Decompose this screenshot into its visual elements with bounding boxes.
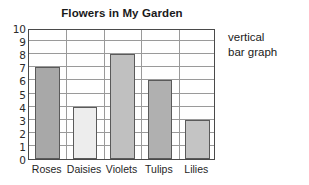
x-tick-label: Roses: [28, 162, 65, 176]
y-tick-label: 4: [6, 102, 26, 113]
bar-violets: [110, 54, 135, 159]
y-tick-label: 5: [6, 89, 26, 100]
annotation-line-1: vertical: [228, 30, 277, 45]
page-title: Flowers in My Garden: [28, 7, 216, 19]
bars-layer: [29, 30, 214, 159]
y-tick-label: 9: [6, 37, 26, 48]
bar-tulips: [148, 80, 173, 159]
bar-lilies: [185, 120, 210, 159]
y-tick-label: 3: [6, 115, 26, 126]
x-tick-label: Daisies: [65, 162, 102, 176]
bar-roses: [35, 67, 60, 159]
y-tick-label: 8: [6, 50, 26, 61]
annotation-line-2: bar graph: [228, 45, 277, 60]
chart-page: Flowers in My Garden 012345678910 RosesD…: [0, 0, 309, 185]
bar-daisies: [73, 107, 98, 159]
y-tick-label: 6: [6, 76, 26, 87]
y-axis-labels: 012345678910: [6, 29, 26, 160]
y-tick-label: 10: [6, 24, 26, 35]
y-tick-label: 7: [6, 63, 26, 74]
annotation-text: vertical bar graph: [228, 30, 277, 60]
plot-area: [28, 29, 215, 160]
x-axis-labels: RosesDaisiesVioletsTulipsLilies: [28, 162, 215, 178]
x-tick-label: Tulips: [140, 162, 177, 176]
y-tick-label: 2: [6, 129, 26, 140]
y-tick-label: 1: [6, 142, 26, 153]
x-tick-label: Violets: [103, 162, 140, 176]
y-tick-label: 0: [6, 155, 26, 166]
x-tick-label: Lilies: [178, 162, 215, 176]
